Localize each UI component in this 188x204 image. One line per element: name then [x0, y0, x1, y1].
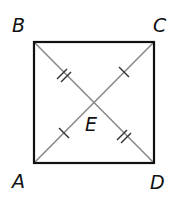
label-c: C [153, 14, 167, 36]
square-diagram: B C A D E [0, 0, 188, 204]
label-b: B [12, 14, 25, 36]
diagram-canvas: B C A D E [0, 0, 188, 204]
tick-marks-be [57, 69, 71, 82]
label-e: E [85, 113, 97, 135]
label-d: D [150, 171, 165, 193]
label-a: A [10, 170, 25, 192]
